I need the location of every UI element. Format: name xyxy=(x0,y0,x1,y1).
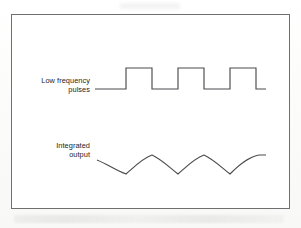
waveform-plot xyxy=(11,14,290,209)
label-integrated-output: Integrated output xyxy=(24,142,90,159)
pulse-train-trace xyxy=(95,68,266,89)
figure-root: Low frequency pulses Integrated output xyxy=(0,0,301,228)
label-integrated-line2: output xyxy=(24,151,90,160)
label-pulses-line2: pulses xyxy=(18,86,90,95)
integrated-output-trace xyxy=(97,155,266,174)
scan-artifact-top xyxy=(120,3,180,9)
scan-artifact-bottom xyxy=(14,215,284,223)
label-low-frequency-pulses: Low frequency pulses xyxy=(18,77,90,94)
